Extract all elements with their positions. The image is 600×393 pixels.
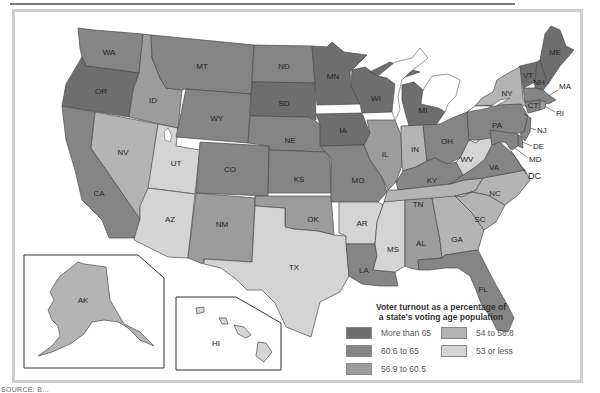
legend-label: More than 65 [381,328,431,338]
label-MT: MT [196,62,208,71]
legend-swatch [346,345,372,357]
label-IN: IN [411,145,419,154]
label-PA: PA [492,121,503,130]
label-TX: TX [289,263,300,272]
label-RI: RI [556,109,564,118]
label-SD: SD [278,99,289,108]
legend-label: 53 or less [476,346,513,356]
label-MN: MN [327,72,340,81]
leader-DE [522,142,532,146]
label-WI: WI [371,94,381,103]
label-OK: OK [307,215,319,224]
source-caption: SOURCE: B... [1,386,49,393]
legend-label: 54 to 56.8 [476,328,514,338]
legend-swatch [441,327,467,339]
label-MO: MO [352,176,365,185]
legend-label: 60.6 to 65 [381,346,419,356]
leader-NJ [530,128,536,130]
label-CT: CT [528,101,539,110]
label-VT: VT [523,71,533,80]
label-AZ: AZ [165,215,175,224]
label-NM: NM [216,220,229,229]
label-TN: TN [413,200,424,209]
label-CA: CA [93,189,105,198]
label-MD: MD [529,155,542,164]
legend-item-56-9-to-60-5: 56.9 to 60.5 [346,363,441,375]
label-WY: WY [211,114,225,123]
legend-swatch [441,345,467,357]
label-ME: ME [549,48,561,57]
label-IL: IL [382,150,389,159]
label-NH: NH [533,78,545,87]
label-DC: DC [528,171,541,181]
label-KS: KS [294,175,305,184]
label-NY: NY [501,89,513,98]
leader-RI [545,106,555,112]
legend-swatch [346,327,372,339]
state-DE[interactable] [518,135,523,148]
legend-title-line1: Voter turnout as a percentage of [346,302,536,312]
legend-title-line2: a state's voting age population [346,312,536,322]
label-NC: NC [489,189,501,198]
label-CO: CO [224,165,236,174]
label-GA: GA [451,235,463,244]
leader-MA [548,90,558,96]
label-VA: VA [489,163,500,172]
legend-swatch [346,363,372,375]
label-HI: HI [212,339,220,348]
label-AL: AL [416,239,426,248]
legend: Voter turnout as a percentage of a state… [346,302,536,375]
label-OR: OR [95,87,107,96]
label-NV: NV [117,148,129,157]
label-FL: FL [478,285,488,294]
state-KS[interactable] [268,150,331,193]
legend-item-more-than-65: More than 65 [346,327,441,339]
label-SC: SC [474,215,485,224]
leader-MD [515,148,528,158]
label-OH: OH [441,137,453,146]
label-LA: LA [359,266,369,275]
label-MA: MA [559,82,572,91]
label-ID: ID [149,96,157,105]
label-DE: DE [533,142,544,151]
legend-item-53-or-less: 53 or less [441,345,531,357]
label-IA: IA [339,126,347,135]
label-MS: MS [387,245,399,254]
label-WV: WV [461,155,475,164]
label-ND: ND [278,62,290,71]
label-NJ: NJ [537,126,547,135]
label-KY: KY [427,176,438,185]
legend-item-60-6-to-65: 60.6 to 65 [346,345,441,357]
label-UT: UT [171,159,182,168]
label-AR: AR [356,219,367,228]
label-AK: AK [78,296,89,305]
label-MI: MI [419,106,428,115]
label-NE: NE [284,136,295,145]
label-WA: WA [103,48,116,57]
legend-item-54-to-56-8: 54 to 56.8 [441,327,531,339]
legend-label: 56.9 to 60.5 [381,364,426,374]
state-RI[interactable] [540,100,546,110]
